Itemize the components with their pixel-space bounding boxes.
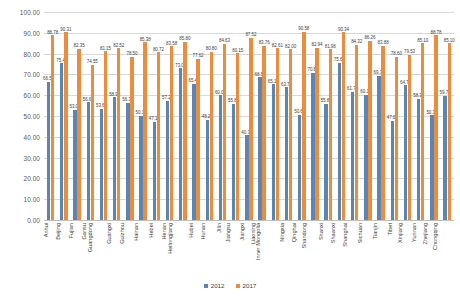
bar-2012: 57.29 — [166, 101, 169, 220]
bar-2012: 68.55 — [258, 77, 261, 220]
bar-2012: 50.36 — [430, 115, 433, 220]
bar-2012: 50.60 — [298, 115, 301, 220]
x-axis-tick-label: Guangxi — [106, 223, 112, 244]
y-axis-tick: 0.00 — [0, 217, 40, 224]
bar-2017: 74.55 — [91, 65, 94, 220]
x-axis-tick-label: Guangdong — [89, 223, 95, 252]
bar-2012: 47.64 — [391, 121, 394, 220]
bar-2017: 85.10 — [421, 43, 424, 220]
x-axis-tick-label: Shaanxi — [331, 223, 337, 243]
bar-2017: 82.61 — [276, 48, 279, 220]
x-axis-tick-label: Inner Mongolia — [257, 223, 263, 260]
y-axis-tick: 50.00 — [0, 113, 40, 120]
bar-2017: 84.32 — [355, 45, 358, 220]
bar-group: 73.0285.80 — [176, 12, 189, 220]
x-axis-cell: Tianjin — [374, 221, 387, 277]
y-axis-tick: 30.00 — [0, 154, 40, 161]
legend-item-2017[interactable]: 2017 — [236, 283, 257, 289]
legend-item-2012[interactable]: 2012 — [204, 283, 225, 289]
bar-group: 59.7885.10 — [441, 12, 454, 220]
bar-group: 48.2080.80 — [203, 12, 216, 220]
bar-group: 66.5788.78 — [44, 12, 57, 220]
bar-group: 69.3583.88 — [374, 12, 387, 220]
x-axis-tick-label: Beijing — [55, 223, 61, 240]
x-axis-tick-label: Jiangsu — [226, 223, 232, 242]
x-axis-tick-label: Hainan — [134, 223, 140, 241]
x-axis-cell: Hunan — [203, 221, 216, 277]
bar-2012: 47.19 — [153, 122, 156, 220]
bar-2017: 86.26 — [368, 41, 371, 220]
bar-group: 75.4090.31 — [57, 12, 70, 220]
bar-2012: 73.02 — [179, 68, 182, 220]
x-axis-cell: Chongqing — [441, 221, 454, 277]
bar-2012: 50.10 — [139, 116, 142, 220]
y-axis-tick: 90.00 — [0, 29, 40, 36]
bar-2017: 88.78 — [51, 35, 54, 220]
bar-group: 47.6478.60 — [388, 12, 401, 220]
y-axis-tick: 20.00 — [0, 175, 40, 182]
bar-group: 47.1980.72 — [150, 12, 163, 220]
y-axis-tick: 70.00 — [0, 71, 40, 78]
bar-group: 57.2983.58 — [163, 12, 176, 220]
bar-2012: 58.37 — [417, 99, 420, 220]
bar-2017: 82.52 — [117, 48, 120, 220]
bar-2012: 69.35 — [377, 76, 380, 220]
bar-group: 60.0784.63 — [216, 12, 229, 220]
bar-group: 58.9382.52 — [110, 12, 123, 220]
bar-2012: 40.70 — [245, 135, 248, 220]
x-axis-tick-label: Tibet — [388, 223, 394, 235]
bar-group: 75.6490.34 — [335, 12, 348, 220]
bar-2012: 55.80 — [324, 104, 327, 220]
x-axis-tick-label: Jilin — [218, 223, 224, 233]
bar-2012: 53.60 — [100, 109, 103, 220]
bar-2012: 53.04 — [73, 110, 76, 220]
x-axis-tick-label: Xinjiang — [398, 223, 404, 243]
x-axis-tick-label: Fujian — [69, 223, 75, 238]
bar-group: 65.4977.62 — [189, 12, 202, 220]
y-axis-tick: 40.00 — [0, 133, 40, 140]
legend-swatch-icon — [236, 284, 241, 289]
bar-group: 60.1686.26 — [361, 12, 374, 220]
bar-2017: 85.80 — [183, 42, 186, 220]
bar-2012: 60.16 — [364, 95, 367, 220]
bar-group: 68.5583.76 — [256, 12, 269, 220]
legend-swatch-icon — [204, 284, 209, 289]
bar-2012: 58.93 — [113, 97, 116, 220]
bar-2017: 90.58 — [302, 32, 305, 220]
x-axis-tick-label: Jiangxi — [240, 223, 246, 240]
bar-group: 56.3878.50 — [123, 12, 136, 220]
bar-value-label: 85.10 — [444, 38, 455, 43]
bar-2012: 60.07 — [219, 95, 222, 220]
bar-2017: 80.72 — [157, 52, 160, 220]
bar-group: 50.6090.58 — [295, 12, 308, 220]
x-axis-tick-label: Tianjin — [373, 223, 379, 239]
bar-2012: 55.88 — [232, 104, 235, 220]
x-axis-tick-label: Zhejiang — [423, 223, 429, 244]
x-axis-tick-label: Heilongjiang — [167, 223, 173, 254]
x-axis-tick-label: Shandong — [302, 223, 308, 249]
x-axis-tick-label: Hebei — [149, 223, 155, 238]
bar-group: 65.1882.61 — [269, 12, 282, 220]
bar-group: 53.6081.15 — [97, 12, 110, 220]
bar-group: 58.3785.10 — [414, 12, 427, 220]
bar-2012: 64.78 — [404, 85, 407, 220]
x-axis-tick-label: Shanxi — [320, 223, 326, 240]
y-axis-tick: 60.00 — [0, 92, 40, 99]
bars-layer: 66.5788.7875.4090.3153.0482.3556.6074.55… — [44, 12, 454, 220]
bar-group: 61.7084.32 — [348, 12, 361, 220]
bar-2017: 82.35 — [77, 49, 80, 220]
bar-chart: 100.0090.0080.0070.0060.0050.0040.0030.0… — [0, 0, 460, 303]
bar-2017: 90.34 — [342, 32, 345, 220]
y-axis-tick: 10.00 — [0, 196, 40, 203]
y-axis-tick: 100.00 — [0, 9, 40, 16]
x-axis-tick-label: Qinghai — [292, 223, 298, 242]
x-axis-tick-label: Yunnan — [411, 223, 417, 242]
y-axis-tick: 80.00 — [0, 50, 40, 57]
bar-2012: 65.49 — [192, 84, 195, 220]
bar-group: 63.7382.00 — [282, 12, 295, 220]
bar-group: 55.8081.98 — [322, 12, 335, 220]
bar-2012: 63.73 — [285, 87, 288, 220]
y-axis: 100.0090.0080.0070.0060.0050.0040.0030.0… — [0, 12, 40, 220]
chart-legend: 20122017 — [0, 283, 460, 289]
bar-2017: 83.88 — [381, 46, 384, 220]
